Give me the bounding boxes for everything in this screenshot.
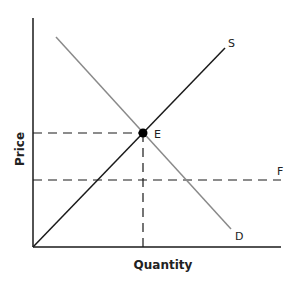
supply-label: S <box>228 37 235 50</box>
equilibrium-point <box>139 129 148 138</box>
demand-label: D <box>235 230 243 243</box>
supply-curve <box>33 48 225 247</box>
x-axis-label: Quantity <box>134 258 193 272</box>
price-floor-label: F <box>277 165 283 178</box>
equilibrium-label: E <box>154 128 161 141</box>
y-axis-label: Price <box>13 132 27 166</box>
supply-demand-diagram: S D F E Quantity Price <box>0 0 296 284</box>
